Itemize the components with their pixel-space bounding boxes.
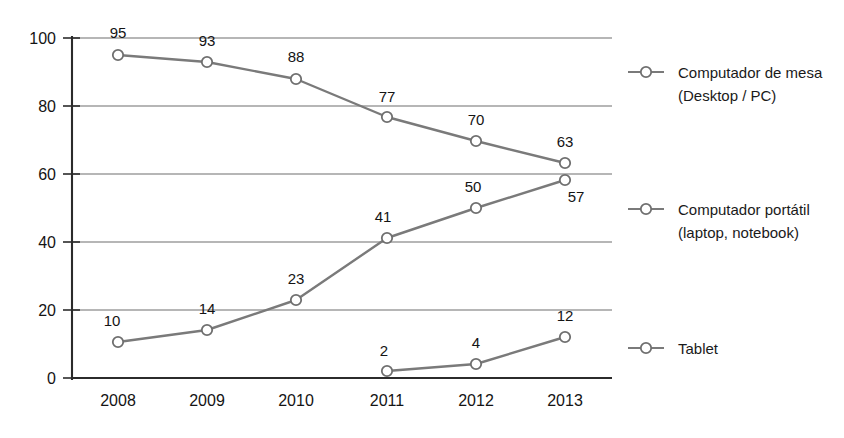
legend-label-laptop-line1: Computador portátil (678, 201, 810, 218)
x-tick-label-2009: 2009 (189, 392, 225, 409)
data-label-desktop-2008: 95 (110, 24, 127, 41)
series-tablet-point (560, 332, 570, 342)
y-tick-label-40: 40 (38, 234, 56, 251)
data-label-laptop-2009: 14 (199, 300, 216, 317)
x-tick-label-2011: 2011 (370, 392, 405, 409)
legend-label-tablet-line1: Tablet (678, 340, 719, 357)
x-tick-label-2012: 2012 (458, 392, 494, 409)
data-label-laptop-2013: 57 (568, 188, 585, 205)
data-label-laptop-2012: 50 (465, 178, 482, 195)
y-tick-label-20: 20 (38, 302, 56, 319)
series-desktop-point (113, 50, 123, 60)
data-label-laptop-2008: 10 (104, 312, 121, 329)
data-label-laptop-2011: 41 (375, 208, 392, 225)
x-tick-label-2013: 2013 (547, 392, 583, 409)
series-desktop-point (471, 136, 481, 146)
series-laptop-point (202, 325, 212, 335)
data-label-tablet-2012: 4 (472, 334, 480, 351)
series-desktop-point (202, 57, 212, 67)
series-desktop-point (382, 112, 392, 122)
data-label-tablet-2013: 12 (557, 307, 574, 324)
legend-label-desktop-line2: (Desktop / PC) (678, 87, 776, 104)
data-label-desktop-2013: 63 (557, 133, 574, 150)
line-chart: 100 80 60 40 20 0 2008 2009 2010 2011 20… (0, 0, 844, 438)
x-tick-label-2008: 2008 (100, 392, 136, 409)
chart-canvas: 100 80 60 40 20 0 2008 2009 2010 2011 20… (0, 0, 844, 438)
data-label-tablet-2011: 2 (380, 342, 388, 359)
legend-marker-circle-icon (641, 67, 651, 77)
data-label-laptop-2010: 23 (288, 270, 305, 287)
data-label-desktop-2011: 77 (379, 88, 396, 105)
data-label-desktop-2010: 88 (288, 48, 305, 65)
data-label-desktop-2009: 93 (199, 32, 216, 49)
y-tick-label-100: 100 (29, 30, 56, 47)
series-laptop-point (113, 337, 123, 347)
legend-label-desktop-line1: Computador de mesa (678, 64, 823, 81)
series-laptop-point (560, 175, 570, 185)
series-tablet-point (382, 366, 392, 376)
y-tick-label-80: 80 (38, 98, 56, 115)
legend-marker-circle-icon (641, 343, 651, 353)
series-tablet-point (471, 359, 481, 369)
legend-label-laptop-line2: (laptop, notebook) (678, 224, 799, 241)
y-tick-label-0: 0 (47, 370, 56, 387)
data-label-desktop-2012: 70 (468, 111, 485, 128)
legend-marker-circle-icon (641, 204, 651, 214)
x-tick-label-2010: 2010 (278, 392, 314, 409)
series-laptop-point (291, 295, 301, 305)
series-desktop-point (560, 158, 570, 168)
series-laptop-point (471, 203, 481, 213)
series-laptop-point (382, 233, 392, 243)
series-desktop-point (291, 74, 301, 84)
y-tick-label-60: 60 (38, 166, 56, 183)
